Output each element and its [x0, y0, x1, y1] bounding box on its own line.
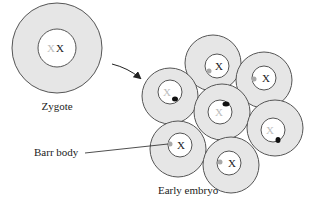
embryo-cell-center: X: [194, 84, 250, 140]
barr-body: [218, 160, 223, 165]
inactive-x-chromosome: X: [47, 42, 55, 54]
active-x-chromosome: X: [177, 139, 185, 151]
barr-body: [207, 69, 212, 74]
development-arrow: [112, 64, 140, 78]
zygote-label: Zygote: [41, 100, 72, 112]
early-embryo-label: Early embryo: [158, 184, 219, 196]
inactive-x-chromosome: X: [266, 124, 274, 136]
barr-body: [252, 77, 257, 82]
barr-body: [172, 97, 178, 102]
inactive-x-chromosome: X: [163, 86, 171, 98]
zygote-cell: X X: [12, 3, 102, 93]
barr-body-label: Barr body: [34, 146, 79, 158]
active-x-chromosome: X: [228, 157, 236, 169]
barr-body: [168, 142, 173, 147]
active-x-chromosome: X: [56, 42, 64, 54]
x-inactivation-diagram: X X Zygote X X X X X: [0, 0, 319, 209]
active-x-chromosome: X: [215, 60, 223, 72]
barr-body: [276, 137, 281, 143]
embryo-cell-right-lower: X: [247, 100, 303, 156]
active-x-chromosome: X: [262, 72, 270, 84]
embryo-cell-left-mid: X: [142, 68, 198, 124]
inactive-x-chromosome: X: [215, 106, 223, 118]
embryo-cell-lower-left: X: [150, 121, 206, 177]
barr-body: [223, 102, 230, 107]
